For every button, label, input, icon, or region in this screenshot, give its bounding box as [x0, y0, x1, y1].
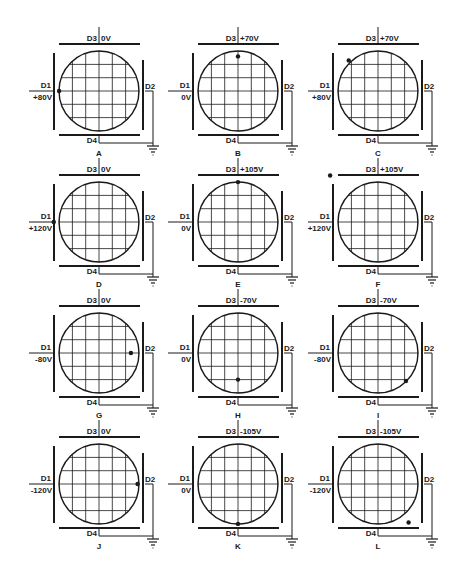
panel-l: D3-105VD1-120VD2D4L: [308, 420, 438, 551]
d3-voltage: 0V: [101, 427, 111, 436]
d3-voltage: -105V: [380, 427, 402, 436]
panel-caption: L: [376, 542, 381, 551]
d3-label: D3: [87, 34, 98, 43]
panel-c: D3+70VD1+80VD2D4C: [308, 27, 438, 158]
electron-beam-spot: [328, 173, 332, 177]
panel-d: D30VD1+120VD2D4D: [29, 158, 159, 289]
panel-caption: H: [235, 411, 241, 420]
d2-label: D2: [424, 475, 435, 484]
panel-k: D3-105VD10VD2D4K: [168, 420, 298, 551]
d1-voltage: -120V: [310, 486, 332, 495]
electron-beam-spot: [236, 54, 240, 58]
electron-beam-spot: [236, 180, 240, 184]
ground-icon: [147, 408, 159, 417]
d3-voltage: +105V: [240, 165, 264, 174]
d1-label: D1: [180, 81, 191, 90]
panel-caption: J: [97, 542, 101, 551]
d1-voltage: -80V: [314, 355, 332, 364]
d4-label: D4: [87, 136, 98, 145]
d2-label: D2: [424, 213, 435, 222]
ground-icon: [147, 277, 159, 286]
panel-e: D3+105VD10VD2D4E: [168, 158, 298, 289]
ground-icon: [286, 408, 298, 417]
panel-g: D30VD1-80VD2D4G: [29, 289, 159, 420]
d1-label: D1: [41, 343, 52, 352]
panel-j: D30VD1-120VD2D4J: [29, 420, 159, 551]
crt-deflection-diagram: D30VD1+80VD2D4AD3+70VD10VD2D4BD3+70VD1+8…: [0, 0, 459, 579]
panel-caption: C: [375, 149, 381, 158]
d3-label: D3: [87, 296, 98, 305]
panel-caption: F: [376, 280, 381, 289]
electron-beam-spot: [129, 351, 133, 355]
d3-label: D3: [366, 296, 377, 305]
d1-voltage: 0V: [181, 224, 191, 233]
d2-label: D2: [424, 82, 435, 91]
d1-label: D1: [320, 212, 331, 221]
d1-label: D1: [320, 474, 331, 483]
d2-label: D2: [145, 475, 156, 484]
d2-label: D2: [145, 82, 156, 91]
d3-label: D3: [87, 165, 98, 174]
panel-caption: A: [96, 149, 102, 158]
d3-voltage: +70V: [240, 34, 260, 43]
d4-label: D4: [87, 529, 98, 538]
electron-beam-spot: [236, 522, 240, 526]
d4-label: D4: [87, 398, 98, 407]
d3-label: D3: [226, 296, 237, 305]
d4-label: D4: [366, 398, 377, 407]
d2-label: D2: [284, 213, 295, 222]
ground-icon: [286, 146, 298, 155]
d1-label: D1: [41, 81, 52, 90]
d4-label: D4: [226, 529, 237, 538]
electron-beam-spot: [236, 377, 240, 381]
d1-voltage: 0V: [181, 93, 191, 102]
d1-label: D1: [41, 474, 52, 483]
d4-label: D4: [226, 267, 237, 276]
d1-voltage: -80V: [35, 355, 53, 364]
d3-label: D3: [366, 427, 377, 436]
panel-caption: K: [235, 542, 241, 551]
d2-label: D2: [424, 344, 435, 353]
d3-label: D3: [226, 165, 237, 174]
d2-label: D2: [284, 344, 295, 353]
d3-voltage: -105V: [240, 427, 262, 436]
d1-label: D1: [320, 81, 331, 90]
d3-label: D3: [226, 34, 237, 43]
d1-label: D1: [41, 212, 52, 221]
panel-caption: E: [235, 280, 241, 289]
d3-voltage: +70V: [380, 34, 400, 43]
panel-h: D3-70VD10VD2D4H: [168, 289, 298, 420]
d4-label: D4: [226, 398, 237, 407]
panel-a: D30VD1+80VD2D4A: [29, 27, 159, 158]
electron-beam-spot: [347, 58, 351, 62]
panel-f: D3+105VD1+120VD2D4F: [308, 158, 438, 289]
d3-voltage: +105V: [380, 165, 404, 174]
d3-voltage: 0V: [101, 165, 111, 174]
d4-label: D4: [226, 136, 237, 145]
d1-label: D1: [320, 343, 331, 352]
ground-icon: [426, 277, 438, 286]
d3-label: D3: [87, 427, 98, 436]
d3-voltage: 0V: [101, 34, 111, 43]
panel-caption: D: [96, 280, 102, 289]
d1-voltage: +80V: [33, 93, 53, 102]
d3-voltage: 0V: [101, 296, 111, 305]
d1-voltage: +120V: [308, 224, 332, 233]
ground-icon: [147, 146, 159, 155]
d1-label: D1: [180, 474, 191, 483]
ground-icon: [286, 539, 298, 548]
d1-label: D1: [180, 212, 191, 221]
panel-caption: I: [377, 411, 379, 420]
d2-label: D2: [145, 344, 156, 353]
electron-beam-spot: [135, 482, 139, 486]
electron-beam-spot: [406, 520, 410, 524]
d4-label: D4: [366, 529, 377, 538]
d1-voltage: 0V: [181, 486, 191, 495]
panel-caption: G: [96, 411, 102, 420]
d3-label: D3: [366, 165, 377, 174]
d3-label: D3: [226, 427, 237, 436]
d1-voltage: -120V: [31, 486, 53, 495]
d1-voltage: +80V: [312, 93, 332, 102]
d1-label: D1: [180, 343, 191, 352]
panel-b: D3+70VD10VD2D4B: [168, 27, 298, 158]
